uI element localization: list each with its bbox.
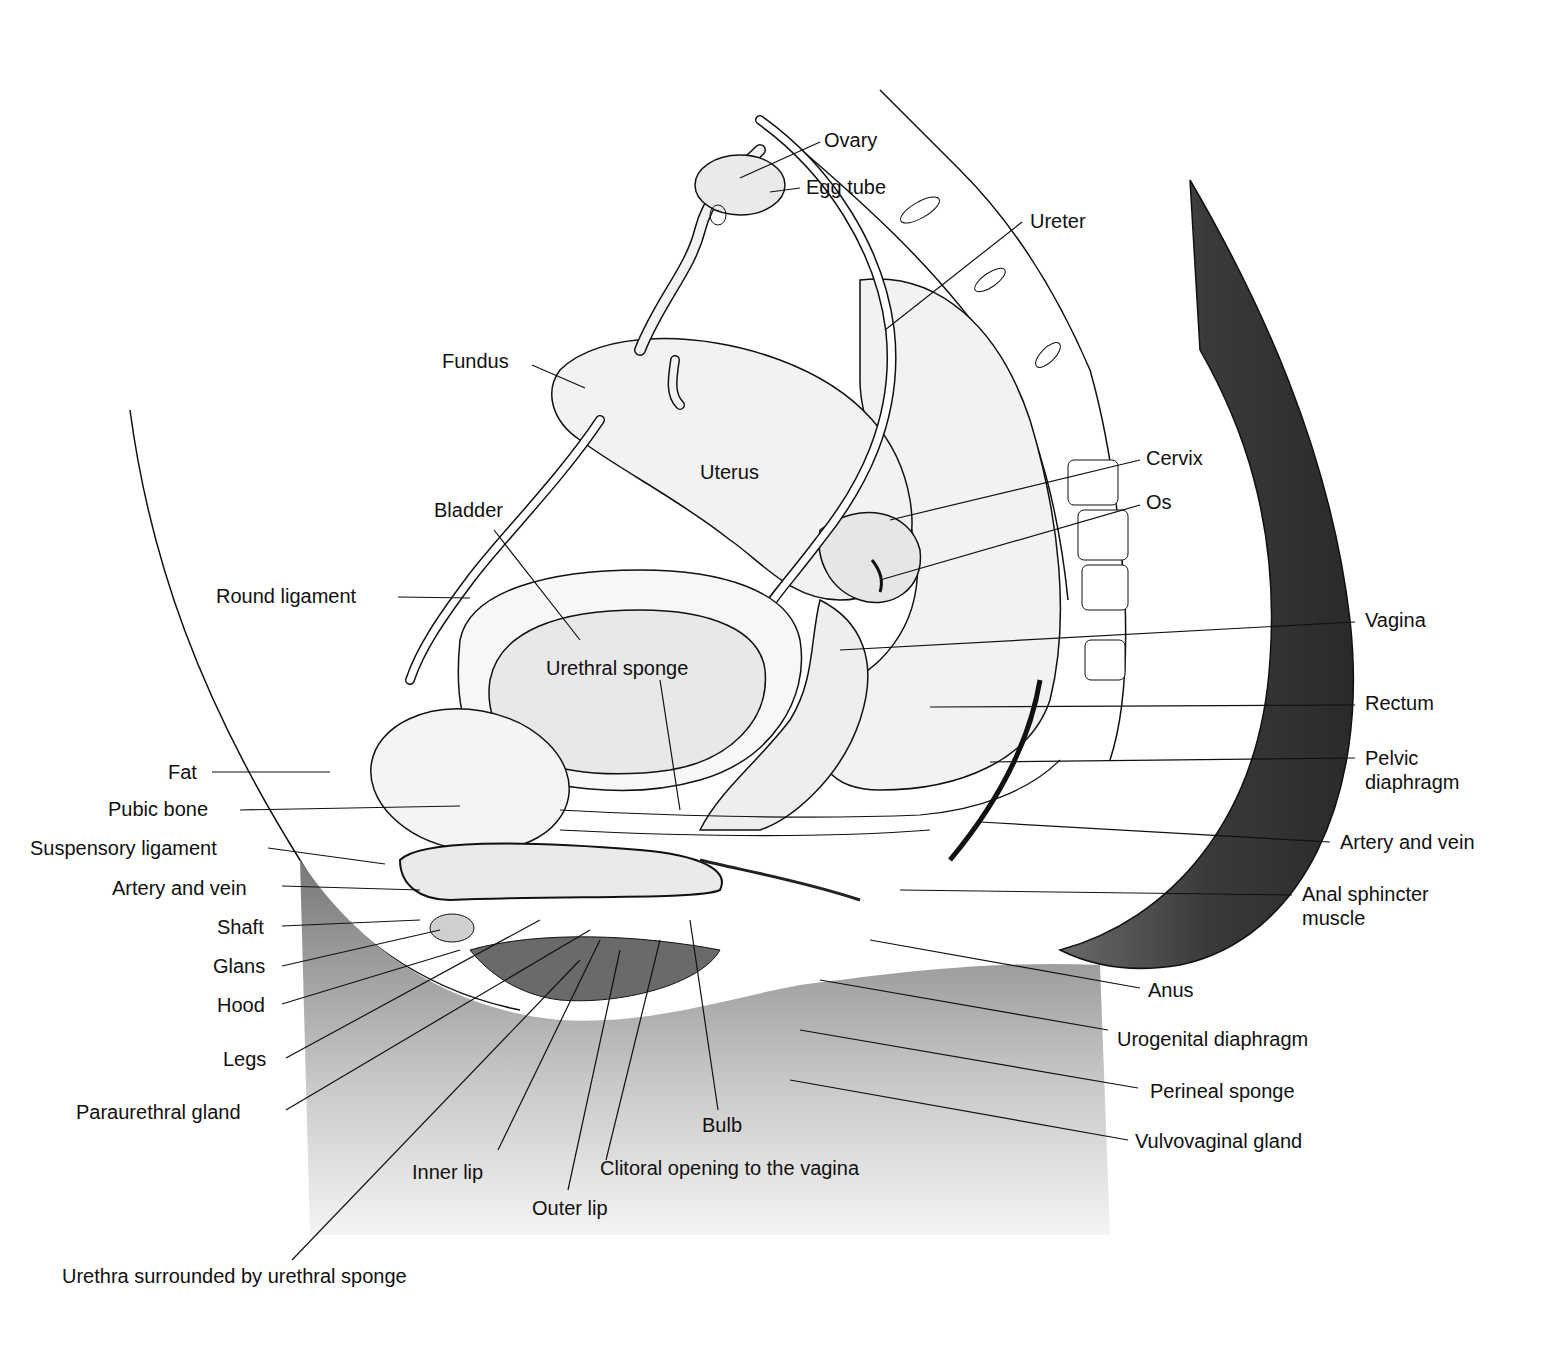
clitoris-shaft-shape	[400, 843, 722, 900]
label-fat: Fat	[168, 760, 197, 784]
anatomy-diagram: Ovary Egg tube Ureter Fundus Uterus Cerv…	[0, 0, 1544, 1346]
label-inner-lip: Inner lip	[412, 1160, 483, 1184]
label-uterus: Uterus	[700, 460, 759, 484]
label-anus: Anus	[1148, 978, 1194, 1002]
label-outer-lip: Outer lip	[532, 1196, 608, 1220]
label-urethra: Urethra surrounded by urethral sponge	[62, 1264, 407, 1288]
label-round-ligament: Round ligament	[216, 584, 356, 608]
label-os: Os	[1146, 490, 1172, 514]
label-shaft: Shaft	[217, 915, 264, 939]
label-egg-tube: Egg tube	[806, 175, 886, 199]
label-legs: Legs	[223, 1047, 266, 1071]
label-anal-sphincter-muscle: Anal sphincter muscle	[1302, 882, 1429, 930]
label-vagina: Vagina	[1365, 608, 1426, 632]
label-suspensory-ligament: Suspensory ligament	[30, 836, 217, 860]
glans-shape	[430, 914, 474, 942]
labia-shape	[470, 937, 720, 1001]
label-bulb: Bulb	[702, 1113, 742, 1137]
label-clitoral-opening: Clitoral opening to the vagina	[600, 1156, 859, 1180]
label-artery-and-vein-left: Artery and vein	[112, 876, 247, 900]
label-glans: Glans	[213, 954, 265, 978]
label-ureter: Ureter	[1030, 209, 1086, 233]
label-cervix: Cervix	[1146, 446, 1203, 470]
label-fundus: Fundus	[442, 349, 509, 373]
label-bladder: Bladder	[434, 498, 503, 522]
illustration	[0, 0, 1544, 1346]
label-rectum: Rectum	[1365, 691, 1434, 715]
label-paraurethral-gland: Paraurethral gland	[76, 1100, 241, 1124]
perineum-vessels	[700, 860, 860, 900]
label-urethral-sponge: Urethral sponge	[546, 656, 688, 680]
label-artery-and-vein-right: Artery and vein	[1340, 830, 1475, 854]
label-urogenital-diaphragm: Urogenital diaphragm	[1117, 1027, 1308, 1051]
label-hood: Hood	[217, 993, 265, 1017]
label-ovary: Ovary	[824, 128, 877, 152]
label-vulvovaginal-gland: Vulvovaginal gland	[1135, 1129, 1302, 1153]
label-pubic-bone: Pubic bone	[108, 797, 208, 821]
label-perineal-sponge: Perineal sponge	[1150, 1079, 1295, 1103]
label-pelvic-diaphragm: Pelvic diaphragm	[1365, 746, 1460, 794]
